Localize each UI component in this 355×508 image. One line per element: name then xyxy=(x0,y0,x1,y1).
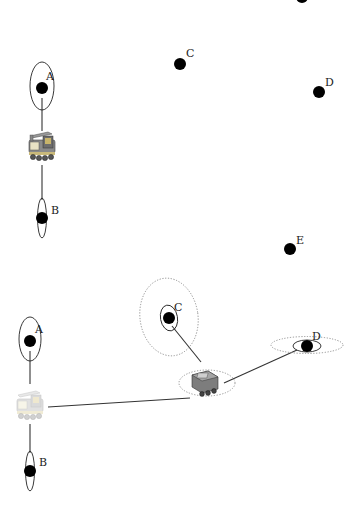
robot-current-pose-icon xyxy=(192,371,218,396)
landmark-dot-C xyxy=(174,58,186,70)
landmark-label-D: D xyxy=(325,76,334,89)
robot-past-pose-icon xyxy=(17,391,43,420)
landmark-B: B xyxy=(36,198,59,238)
edge-current-to-D xyxy=(224,350,297,383)
landmark-partial-top xyxy=(296,0,308,3)
robot-icon xyxy=(29,132,55,161)
slam-diagram: A B C D E xyxy=(0,0,355,508)
landmark-label-B: B xyxy=(39,456,47,469)
landmark-label-D: D xyxy=(312,330,321,343)
landmark-label-C: C xyxy=(174,301,182,314)
landmark-dot-A xyxy=(24,335,36,347)
landmark-D-bottom: D xyxy=(271,330,343,354)
top-panel: A B C D E xyxy=(29,0,334,255)
bottom-panel: A B C D xyxy=(17,274,343,491)
landmark-label-C: C xyxy=(186,47,194,60)
landmark-A-bottom: A xyxy=(19,317,44,361)
landmark-C: C xyxy=(174,47,194,70)
robot-current-pose xyxy=(179,370,235,396)
landmark-E: E xyxy=(284,234,304,255)
edge-C-to-current xyxy=(172,326,201,362)
landmark-label-A: A xyxy=(45,70,55,83)
landmark-dot-E xyxy=(284,243,296,255)
landmark-dot-A xyxy=(36,82,48,94)
landmark-label-A: A xyxy=(34,323,44,336)
landmark-C-bottom: C xyxy=(135,274,203,359)
landmark-dot-D xyxy=(313,86,325,98)
landmark-dot-B xyxy=(36,212,48,224)
landmark-dot-B xyxy=(24,465,36,477)
landmark-label-B: B xyxy=(51,204,59,217)
edge-past-pose-to-current xyxy=(48,398,190,407)
landmark-B-bottom: B xyxy=(24,451,47,491)
landmark-D: D xyxy=(313,76,334,98)
landmark-label-E: E xyxy=(296,234,304,247)
